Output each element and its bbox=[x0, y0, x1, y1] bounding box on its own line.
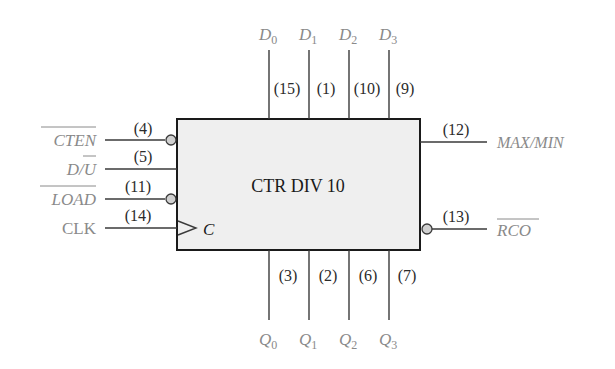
output-q3: (7) Q3 bbox=[379, 250, 416, 352]
signal-label: Q1 bbox=[299, 330, 317, 352]
counter-diagram: CTR DIV 10 C (4) CTEN (5) D/U (11) LOAD … bbox=[0, 0, 615, 369]
signal-label: MAX/MIN bbox=[496, 134, 565, 151]
pin-number: (2) bbox=[319, 267, 338, 285]
pin-number: (10) bbox=[354, 80, 381, 98]
output-q2: (6) Q2 bbox=[339, 250, 377, 352]
pin-number: (13) bbox=[443, 208, 470, 226]
inversion-bubble-icon bbox=[422, 224, 432, 234]
signal-label: D1 bbox=[298, 25, 317, 47]
output-q0: (3) Q0 bbox=[259, 250, 297, 352]
signal-label: CTEN bbox=[53, 131, 97, 150]
signal-label: Q3 bbox=[379, 330, 397, 352]
pin-number: (4) bbox=[134, 120, 153, 138]
pin-number: (5) bbox=[134, 148, 153, 166]
pin-number: (6) bbox=[359, 267, 378, 285]
pin-number: (11) bbox=[125, 178, 151, 196]
pin-number: (15) bbox=[274, 80, 301, 98]
pin-number: (14) bbox=[125, 207, 152, 225]
signal-label: D2 bbox=[338, 25, 357, 47]
output-rco: (13) RCO bbox=[422, 208, 539, 240]
inversion-bubble-icon bbox=[166, 194, 176, 204]
signal-label: Q2 bbox=[339, 330, 357, 352]
signal-label: D3 bbox=[378, 25, 397, 47]
signal-label: RCO bbox=[496, 221, 531, 240]
pin-number: (1) bbox=[317, 80, 336, 98]
input-d0: (15) D0 bbox=[258, 25, 300, 119]
signal-label: LOAD bbox=[51, 190, 97, 209]
signal-label: CLK bbox=[62, 219, 97, 238]
input-load: (11) LOAD bbox=[40, 178, 176, 209]
output-max-min: (12) MAX/MIN bbox=[420, 121, 565, 151]
pin-number: (3) bbox=[279, 267, 298, 285]
block-title: CTR DIV 10 bbox=[251, 176, 345, 196]
output-q1: (2) Q1 bbox=[299, 250, 337, 352]
pin-number: (7) bbox=[398, 267, 417, 285]
input-d-u: (5) D/U bbox=[66, 148, 177, 179]
input-cten: (4) CTEN bbox=[41, 120, 176, 150]
clock-label: C bbox=[203, 220, 215, 239]
signal-label: D/U bbox=[66, 160, 98, 179]
signal-label: D0 bbox=[258, 25, 277, 47]
input-clk: (14) CLK bbox=[62, 207, 177, 238]
pin-number: (9) bbox=[396, 80, 415, 98]
inversion-bubble-icon bbox=[166, 135, 176, 145]
signal-label: Q0 bbox=[259, 330, 277, 352]
input-d3: (9) D3 bbox=[378, 25, 414, 119]
input-d2: (10) D2 bbox=[338, 25, 380, 119]
pin-number: (12) bbox=[443, 121, 470, 139]
input-d1: (1) D1 bbox=[298, 25, 335, 119]
